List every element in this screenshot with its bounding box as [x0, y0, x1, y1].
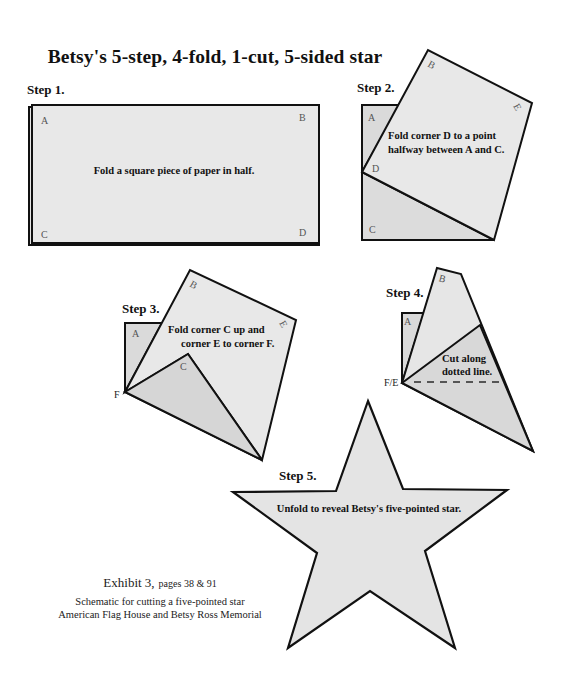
step-5-instruction: Unfold to reveal Betsy's five-pointed st…: [277, 503, 462, 514]
step-1-figure: A B C D Fold a square piece of paper in …: [29, 105, 319, 245]
caption: Exhibit 3, pages 38 & 91 Schematic for c…: [35, 573, 285, 621]
step-4-instruction-line-1: Cut along: [442, 353, 487, 364]
exhibit-label: Exhibit 3,: [103, 575, 154, 590]
corner-a-label: A: [132, 328, 140, 339]
corner-a-label: A: [41, 115, 49, 126]
corner-c-label: C: [180, 361, 187, 372]
caption-line-1: Schematic for cutting a five-pointed sta…: [35, 595, 285, 608]
step-4-instruction-line-2: dotted line.: [442, 366, 493, 377]
corner-b-label: B: [299, 112, 306, 123]
step-2-instruction-line-2: halfway between A and C.: [388, 144, 505, 155]
corner-a-label: A: [404, 316, 412, 327]
step-3-instruction-line-2: corner E to corner F.: [181, 338, 275, 349]
step-4-figure: A B F/E Cut along dotted line.: [384, 268, 533, 451]
corner-d-label: D: [372, 163, 379, 174]
caption-line-2: American Flag House and Betsy Ross Memor…: [35, 608, 285, 621]
step-1-instruction: Fold a square piece of paper in half.: [94, 165, 255, 176]
corner-a-label: A: [368, 112, 376, 123]
step-3-figure: A B E C F Fold corner C up and corner E …: [114, 270, 296, 460]
step-2-instruction-line-1: Fold corner D to a point: [388, 130, 497, 141]
corner-f-label: F: [114, 389, 120, 400]
corner-c-label: C: [41, 229, 48, 240]
step-3-instruction-line-1: Fold corner C up and: [168, 324, 265, 335]
exhibit-pages: pages 38 & 91: [159, 578, 217, 589]
corner-fe-label: F/E: [384, 377, 398, 388]
corner-d-label: D: [299, 227, 306, 238]
step-2-figure: A B E D C Fold corner D to a point halfw…: [362, 50, 532, 240]
corner-c-label: C: [369, 224, 376, 235]
